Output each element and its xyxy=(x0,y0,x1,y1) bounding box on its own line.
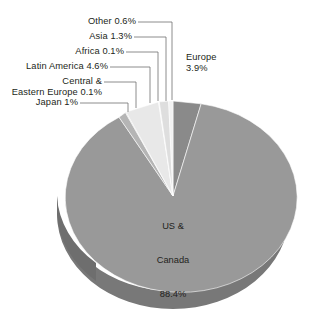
leader-line-central-eastern-europe xyxy=(104,82,136,108)
leader-line-latin-america xyxy=(110,67,150,103)
callout-label-japan: Japan 1% xyxy=(2,97,78,109)
callout-label-europe-line1: Europe xyxy=(186,52,256,64)
slice-label-us-canada-line3: 88.4% xyxy=(133,289,213,300)
callout-label-africa: Africa 0.1% xyxy=(2,46,124,58)
callout-label-europe-line2: 3.9% xyxy=(186,63,256,75)
leader-line-japan xyxy=(80,103,128,112)
slice-label-us-canada: US & Canada 88.4% xyxy=(133,198,213,317)
leader-line-other xyxy=(138,22,172,100)
slice-label-us-canada-line1: US & xyxy=(133,221,213,232)
slice-label-us-canada-line2: Canada xyxy=(133,255,213,266)
callout-label-other: Other 0.6% xyxy=(2,16,136,28)
leader-line-africa xyxy=(126,52,158,101)
callout-label-asia: Asia 1.3% xyxy=(2,31,132,43)
callout-label-central-eastern-europe-line1: Central & xyxy=(2,76,102,88)
pie-chart: Other 0.6% Asia 1.3% Africa 0.1% Latin A… xyxy=(0,0,309,317)
callout-label-latin-america: Latin America 4.6% xyxy=(2,61,108,73)
